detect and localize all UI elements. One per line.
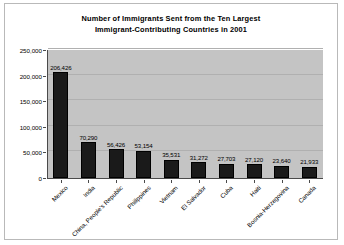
x-category-label: Mexico [50, 184, 69, 203]
bar-column[interactable]: 70,290 [81, 134, 96, 178]
x-tick-mark [282, 180, 283, 183]
x-tick-mark [254, 180, 255, 183]
x-tick-mark [226, 180, 227, 183]
bar-value-label: 53,154 [135, 142, 153, 149]
bar[interactable] [53, 72, 68, 178]
y-tick-label: 200,000 [20, 72, 42, 79]
bar-column[interactable]: 53,154 [136, 142, 151, 178]
bar-column[interactable]: 56,426 [109, 141, 124, 178]
bar[interactable] [164, 160, 179, 178]
x-tick-mark [199, 180, 200, 183]
x-tick-mark [171, 180, 172, 183]
bar[interactable] [219, 164, 234, 178]
gridline [48, 48, 323, 49]
y-tick-label: 250,000 [20, 47, 42, 54]
bar[interactable] [109, 149, 124, 178]
y-tick-mark [43, 76, 46, 77]
y-axis: 050,000100,000150,000200,000250,000 [5, 44, 46, 184]
bar-value-label: 27,120 [245, 156, 263, 163]
y-tick-mark [43, 152, 46, 153]
bar-value-label: 21,933 [300, 158, 318, 165]
chart-title: Number of Immigrants Sent from the Ten L… [5, 13, 337, 35]
x-category-label: Cuba [219, 184, 234, 199]
x-category-label: India [82, 184, 96, 198]
bar-value-label: 35,531 [162, 151, 180, 158]
x-category-label: El Salvador [179, 184, 206, 211]
x-tick-mark [61, 180, 62, 183]
x-category-label: Vietnam [158, 184, 179, 205]
y-tick-label: 0 [39, 175, 42, 182]
x-tick-mark [309, 180, 310, 183]
bar-value-label: 70,290 [79, 134, 97, 141]
chart-title-line-1: Number of Immigrants Sent from the Ten L… [5, 13, 337, 24]
bar[interactable] [191, 162, 206, 178]
y-tick-mark [43, 127, 46, 128]
bar-value-label: 23,640 [273, 157, 291, 164]
bar-column[interactable]: 206,426 [53, 64, 68, 178]
chart-frame: Number of Immigrants Sent from the Ten L… [4, 3, 338, 240]
y-tick-mark [43, 178, 46, 179]
bar-column[interactable]: 27,120 [247, 156, 262, 178]
x-category-label: Philippines [125, 184, 151, 210]
y-tick-mark [43, 101, 46, 102]
x-tick-mark [144, 180, 145, 183]
bar-column[interactable]: 21,933 [302, 158, 317, 178]
y-tick-label: 150,000 [20, 98, 42, 105]
x-axis: MexicoIndiaChina, People's RepublicPhili… [5, 182, 339, 240]
x-tick-mark [116, 180, 117, 183]
bar-series: 206,42670,29056,42653,15435,53131,27227,… [47, 50, 323, 179]
y-tick-mark [43, 50, 46, 51]
bar[interactable] [274, 166, 289, 178]
bar[interactable] [302, 167, 317, 178]
bar-column[interactable]: 31,272 [191, 154, 206, 179]
bar[interactable] [81, 142, 96, 178]
bar-value-label: 27,703 [217, 155, 235, 162]
bar-value-label: 31,272 [190, 154, 208, 161]
x-tick-mark [88, 180, 89, 183]
bar-column[interactable]: 23,640 [274, 157, 289, 178]
y-tick-label: 100,000 [20, 123, 42, 130]
x-category-label: Haiti [248, 184, 262, 198]
y-tick-label: 50,000 [23, 149, 42, 156]
bar-value-label: 206,426 [50, 64, 71, 71]
bar[interactable] [136, 151, 151, 178]
bar[interactable] [247, 164, 262, 178]
bar-value-label: 56,426 [107, 141, 125, 148]
bar-column[interactable]: 27,703 [219, 155, 234, 178]
x-category-label: China, People's Republic [70, 184, 124, 238]
x-category-label: Canada [297, 184, 317, 204]
chart-title-line-2: Immigrant-Contributing Countries in 2001 [5, 24, 337, 35]
bar-column[interactable]: 35,531 [164, 151, 179, 178]
